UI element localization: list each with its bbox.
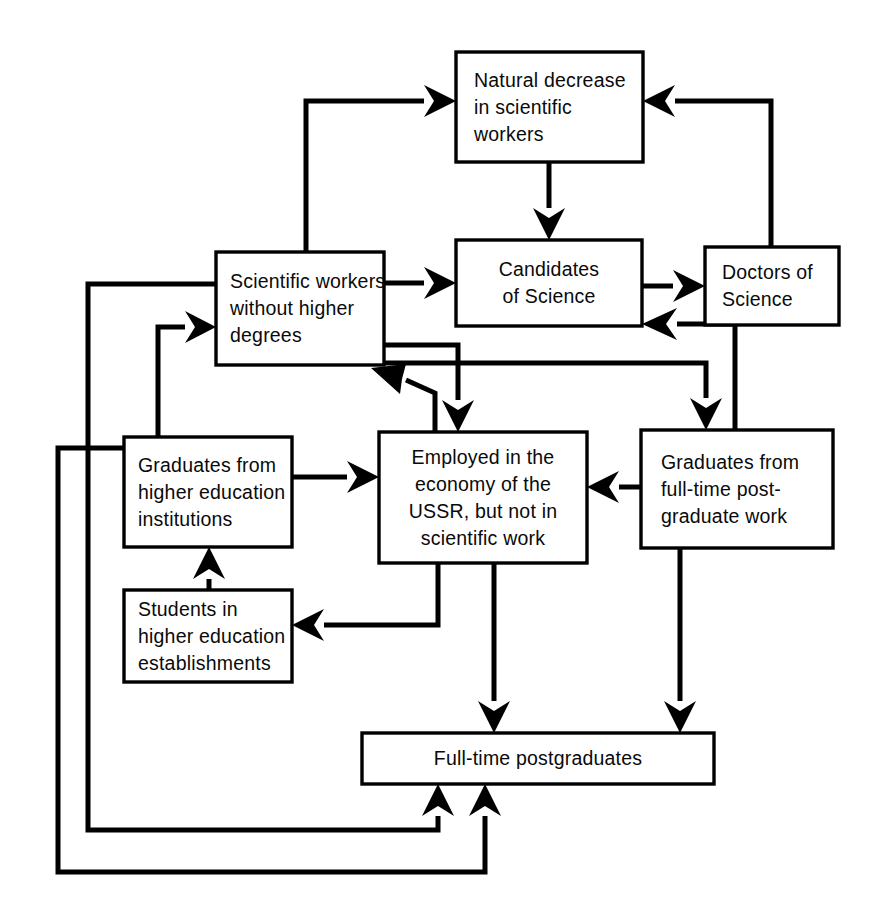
box-candidates-of-science[interactable]: [456, 240, 642, 326]
edge-graduates-postgraduate-to-full-time-postgraduates: [664, 548, 696, 733]
flowchart-connectors: [0, 0, 883, 917]
flowchart-canvas: Natural decrease in scientific workers S…: [0, 0, 883, 917]
box-doctors-of-science[interactable]: [705, 247, 839, 325]
edge-graduates-higher-education-to-scientific-workers: [158, 311, 216, 437]
edge-graduates-postgraduate-to-employed: [587, 471, 641, 503]
node-boxes: [124, 52, 839, 784]
box-graduates-postgraduate[interactable]: [641, 430, 833, 548]
edge-students-to-graduates-higher-education: [193, 547, 225, 590]
edge-employed-to-full-time-postgraduates: [478, 563, 510, 733]
edge-graduates-higher-education-to-employed: [292, 461, 379, 493]
edge-candidates-to-doctors: [642, 270, 705, 302]
box-students-higher-education[interactable]: [124, 590, 292, 682]
edge-natural-decrease-to-candidates: [533, 162, 565, 240]
box-scientific-workers[interactable]: [216, 252, 384, 365]
box-graduates-higher-education[interactable]: [124, 437, 292, 547]
edge-scientific-workers-to-candidates: [384, 267, 456, 299]
box-employed-economy[interactable]: [379, 432, 587, 563]
edge-employed-to-scientific-workers: [371, 364, 435, 432]
box-natural-decrease[interactable]: [456, 52, 643, 162]
edge-scientific-workers-to-natural-decrease: [306, 85, 456, 252]
edge-employed-to-students: [292, 563, 438, 641]
edge-doctors-to-natural-decrease: [643, 85, 771, 247]
box-full-time-postgraduates[interactable]: [362, 733, 714, 784]
